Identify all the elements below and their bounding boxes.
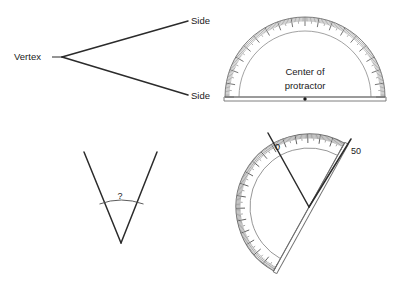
vertex-label: Vertex	[14, 51, 41, 62]
protractor-center-dot	[303, 97, 306, 100]
side-label-upper: Side	[191, 15, 210, 26]
side-label-lower: Side	[191, 90, 210, 101]
center-of-protractor-label-line2: protractor	[285, 80, 326, 91]
angles-and-protractors-figure: Vertex Side Side Center of protractor ?	[0, 0, 409, 308]
center-of-protractor-label-line1: Center of	[285, 66, 324, 77]
protractor-fifty-mark-label: 50	[351, 146, 361, 156]
figure-root: Vertex Side Side Center of protractor ?	[0, 0, 409, 308]
unknown-angle-question-label: ?	[117, 191, 122, 201]
protractor-zero-mark-label: 0	[275, 142, 280, 152]
